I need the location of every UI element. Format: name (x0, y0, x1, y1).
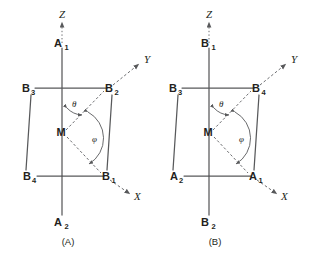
panel-a-vertex-b4-label: B (23, 170, 31, 182)
panel-b-vertex-b3-label: B (169, 82, 177, 94)
panel-b: Z B 1 B 2 Y X (169, 8, 299, 247)
stereochemistry-figure: Z A 1 A 2 Y X (0, 0, 329, 255)
panel-a-vertex-b1-subscript: 1 (112, 176, 116, 185)
panel-b-vertex-b1-subscript: 1 (212, 43, 216, 52)
panel-a: Z A 1 A 2 Y X (22, 8, 152, 247)
panel-a-vertex-a1-label: A (54, 37, 62, 49)
panel-b-y-axis-line (260, 64, 286, 85)
panel-a-ray-m-to-b2 (66, 91, 104, 130)
panel-a-vertex-a1-subscript: 1 (65, 43, 69, 52)
panel-b-theta-label: θ (219, 99, 224, 109)
panel-b-theta-arc (214, 108, 229, 115)
panel-a-vertex-b3-label: B (22, 82, 30, 94)
panel-b-phi-label: φ (239, 134, 244, 144)
panel-a-bond-b3-b4 (26, 95, 31, 170)
panel-a-theta-arc (67, 108, 82, 115)
panel-b-vertex-a1-label: A (249, 170, 257, 182)
panel-a-vertex-a2-subscript: 2 (65, 222, 69, 231)
panel-b-vertex-b2-subscript: 2 (212, 222, 216, 231)
panel-b-ray-m-to-a2 (213, 91, 251, 130)
panel-b-vertex-a2-subscript: 4 (262, 88, 267, 97)
panel-b-y-axis-label: Y (291, 53, 299, 65)
panel-a-vertex-b4-subscript: 4 (32, 176, 37, 185)
panel-a-vertex-b2-label: B (105, 82, 113, 94)
figure-root: Z A 1 A 2 Y X (0, 0, 329, 255)
panel-b-center-atom-label: M (203, 126, 212, 138)
panel-a-bond-b2-b1 (107, 95, 112, 170)
panel-b-vertex-b4-subscript: 2 (179, 176, 183, 185)
panel-b-bond-a2-a1 (254, 95, 259, 170)
panel-b-vertex-b1-label: B (201, 37, 209, 49)
panel-a-center-atom-label: M (56, 126, 65, 138)
panel-b-vertex-b4-label: A (170, 170, 178, 182)
panel-a-y-axis-label: Y (144, 53, 152, 65)
panel-a-phi-label: φ (92, 134, 97, 144)
panel-b-bond-b3-b4 (173, 95, 178, 170)
panel-b-vertex-b3-subscript: 3 (178, 88, 182, 97)
panel-a-vertex-a2-label: A (54, 216, 62, 228)
panel-b-vertex-a2-label: B (252, 82, 260, 94)
panel-a-theta-label: θ (72, 99, 77, 109)
panel-b-z-axis-label: Z (206, 8, 213, 20)
panel-a-vertex-b1-label: B (102, 170, 110, 182)
panel-a-caption: (A) (62, 236, 75, 247)
panel-a-vertex-b3-subscript: 3 (31, 88, 35, 97)
panel-b-caption: (B) (209, 236, 222, 247)
panel-b-x-axis-label: X (280, 190, 289, 202)
panel-a-z-axis-label: Z (59, 8, 66, 20)
panel-a-y-axis-line (113, 64, 139, 85)
panel-a-x-axis-label: X (133, 190, 142, 202)
panel-b-vertex-b2-label: B (201, 216, 209, 228)
panel-b-vertex-a1-subscript: 1 (259, 176, 263, 185)
panel-a-vertex-b2-subscript: 2 (115, 88, 119, 97)
